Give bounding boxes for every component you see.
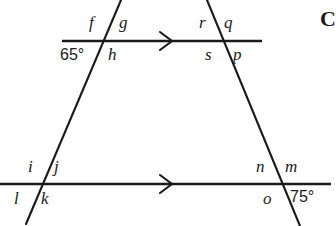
angle-label-r: r (199, 14, 206, 31)
angle-label-g: g (119, 14, 128, 31)
angle-label-f: f (89, 14, 94, 31)
angle-label-l: l (14, 190, 19, 207)
angle-label-h: h (108, 46, 117, 63)
corner-mark-character: C (320, 8, 336, 30)
angle-label-i: i (28, 158, 33, 175)
angle-label-s: s (205, 46, 212, 63)
angle-label-m: m (285, 158, 297, 175)
angle-measure-65: 65° (60, 47, 84, 63)
angle-label-n: n (256, 158, 265, 175)
right-transversal-line (207, 0, 300, 226)
angle-label-j: j (54, 158, 59, 175)
angle-label-p: p (233, 46, 242, 63)
angle-label-k: k (41, 190, 49, 207)
angle-measure-75: 75° (290, 189, 314, 205)
angle-label-o: o (263, 190, 272, 207)
angle-label-q: q (224, 14, 233, 31)
